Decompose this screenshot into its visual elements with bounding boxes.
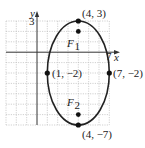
right-covertex-label: (7, −2)	[113, 67, 143, 80]
x-axis-label: x	[113, 51, 119, 63]
top-vertex-label: (4, 3)	[82, 7, 106, 20]
focus-1-label: F	[66, 37, 74, 49]
focus-1-point	[76, 29, 81, 34]
right-covertex-point	[107, 70, 112, 75]
y-axis-arrow-icon	[35, 11, 39, 17]
y-tick-label: 3	[29, 15, 35, 27]
focus-2-point	[76, 112, 81, 117]
top-vertex-point	[76, 18, 81, 23]
focus-1-subscript: 1	[75, 40, 81, 52]
focus-2-label: F	[66, 96, 74, 108]
ellipse-diagram: y 3 x 7 (4, 3) (4, −7) (1, −2) (7, −2) F…	[0, 0, 145, 148]
left-covertex-label: (1, −2)	[52, 67, 82, 80]
bottom-vertex-point	[76, 122, 81, 127]
left-covertex-point	[45, 70, 50, 75]
focus-2-subscript: 2	[75, 99, 81, 111]
bottom-vertex-label: (4, −7)	[82, 128, 112, 141]
